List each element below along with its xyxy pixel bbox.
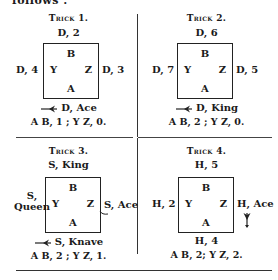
- seat-z: Z: [219, 64, 226, 75]
- score: A B, 2 ; Y Z, 1.: [0, 250, 137, 261]
- lead-arrow-icon: [175, 105, 193, 113]
- west-card-rank: Queen: [14, 201, 50, 212]
- seat-a: A: [178, 83, 232, 94]
- seat-b: B: [46, 182, 100, 193]
- west-card: S, Queen: [14, 190, 50, 212]
- seat-z: Z: [87, 198, 94, 209]
- seat-y: Y: [185, 198, 192, 209]
- trick-3: Trick 3. S, King B Y Z A S, Queen S, Ace…: [0, 138, 137, 271]
- score: A B, 1 ; Y Z, 0.: [0, 116, 137, 127]
- table-box: B Y Z A: [177, 43, 233, 99]
- trick-2: Trick 2. D, 6 B Y Z A D, 7 D, 5 D, King …: [138, 0, 275, 133]
- seat-z: Z: [85, 64, 92, 75]
- lead-card: D, Ace: [61, 102, 97, 113]
- east-card: H, Ace: [237, 198, 274, 209]
- north-card: D, 2: [0, 27, 137, 38]
- east-card: D, 5: [236, 64, 258, 75]
- west-card: D, 4: [16, 64, 38, 75]
- score: A B, 2; Y Z, 2.: [138, 249, 275, 260]
- seat-y: Y: [184, 64, 191, 75]
- seat-y: Y: [50, 64, 57, 75]
- trick-title: Trick 3.: [0, 146, 137, 156]
- lead-arrow-icon: [34, 239, 52, 247]
- trick-title: Trick 1.: [0, 13, 137, 23]
- seat-a: A: [179, 217, 233, 228]
- lead-line: S, Knave: [0, 236, 137, 247]
- seat-a: A: [46, 217, 100, 228]
- east-card: D, 3: [102, 64, 124, 75]
- score: A B, 2 ; Y Z, 0.: [138, 116, 275, 127]
- north-card: H, 5: [138, 159, 275, 170]
- lead-arrow-down-icon: [243, 212, 251, 228]
- lead-card: D, King: [196, 102, 238, 113]
- table-box: B Y Z A: [43, 43, 99, 99]
- west-card-suit: S,: [14, 190, 50, 201]
- west-card: D, 7: [152, 64, 174, 75]
- seat-b: B: [178, 48, 232, 59]
- lead-line: D, King: [138, 102, 275, 113]
- seat-y: Y: [52, 198, 59, 209]
- east-card: S, Ace: [104, 199, 138, 210]
- table-box: B Y Z A: [45, 177, 101, 233]
- seat-b: B: [179, 182, 233, 193]
- trick-4: Trick 4. H, 5 B Y Z A H, 2 H, Ace H, 4 A…: [138, 138, 275, 271]
- trick-1: Trick 1. D, 2 B Y Z A D, 4 D, 3 D, Ace A…: [0, 0, 137, 133]
- north-card: D, 6: [138, 27, 275, 38]
- north-card: S, King: [0, 159, 137, 170]
- lead-hook-icon: [99, 210, 109, 216]
- seat-z: Z: [220, 198, 227, 209]
- trick-title: Trick 2.: [138, 13, 275, 23]
- seat-b: B: [44, 48, 98, 59]
- table-box: B Y Z A: [178, 177, 234, 233]
- west-card: H, 2: [152, 198, 175, 209]
- trick-title: Trick 4.: [138, 146, 275, 156]
- seat-a: A: [44, 83, 98, 94]
- lead-line: D, Ace: [0, 102, 137, 113]
- south-card: H, 4: [138, 235, 275, 246]
- lead-card: S, Knave: [55, 236, 103, 247]
- lead-arrow-icon: [40, 105, 58, 113]
